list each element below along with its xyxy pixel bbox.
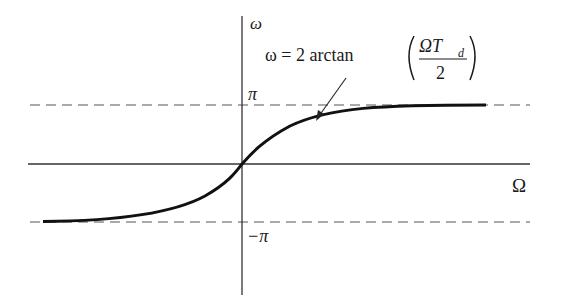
plot-canvas: ω Ω π −π ω = 2 arctan ΩT d 2 [0,0,562,298]
formula-denominator: 2 [436,63,445,83]
formula-lhs: ω = 2 arctan [265,45,353,65]
right-paren-icon [470,36,475,80]
lower-asymptote-label: −π [247,226,269,246]
x-axis-label: Ω [512,175,526,196]
formula-numerator: ΩT [419,36,444,56]
upper-asymptote-label: π [248,84,258,104]
formula-subscript: d [458,46,465,60]
arctan-curve [43,105,486,222]
y-axis-label: ω [250,14,262,33]
left-paren-icon [409,36,414,80]
formula-annotation: ω = 2 arctan ΩT d 2 [265,36,475,83]
